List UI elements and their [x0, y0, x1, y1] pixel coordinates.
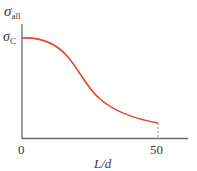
- x-axis-label: L/d: [94, 156, 111, 171]
- y-axis-label: σall: [4, 3, 20, 21]
- x-tick-50: 50: [150, 142, 163, 158]
- x-tick-0: 0: [18, 142, 25, 158]
- y-axis-subscript: all: [11, 11, 20, 21]
- stress-curve: [22, 38, 158, 123]
- sigma-c-symbol: σ: [3, 29, 10, 44]
- chart-plot: [0, 0, 197, 171]
- sigma-c-subscript: C: [10, 36, 16, 46]
- sigma-c-marker: σC: [3, 29, 16, 46]
